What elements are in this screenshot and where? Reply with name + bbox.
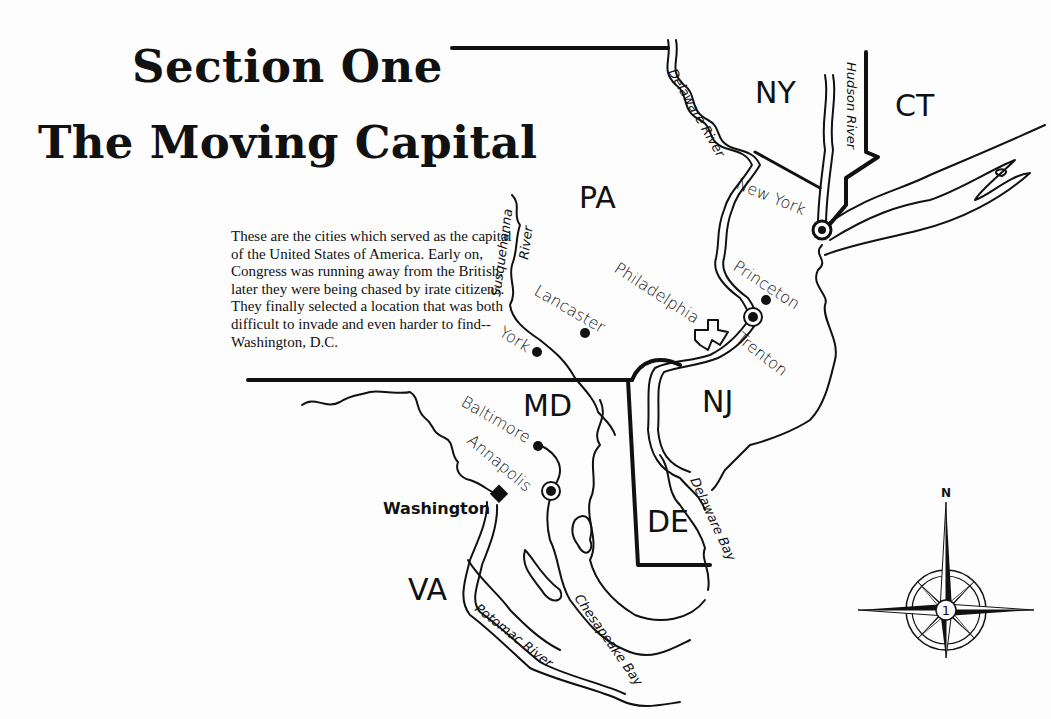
city-label-trenton: Trenton xyxy=(733,328,792,380)
annapolis-marker xyxy=(542,482,560,500)
city-label-philadelphia: Philadelphia xyxy=(611,258,703,327)
historical-map: PA NY CT NJ MD DE VA New York Princeton … xyxy=(0,0,1051,719)
label-delaware-river: Delaware River xyxy=(665,66,728,161)
state-label-ct: CT xyxy=(895,88,935,123)
compass-rose: 1 N xyxy=(858,486,1034,658)
state-label-nj: NJ xyxy=(702,384,733,419)
city-label-lancaster: Lancaster xyxy=(531,281,609,337)
city-label-new-york: New York xyxy=(734,174,809,219)
washington-marker xyxy=(490,485,508,503)
york-marker xyxy=(532,347,542,357)
state-label-de: DE xyxy=(647,504,689,539)
hudson-river xyxy=(818,75,834,225)
label-potomac-river: Potomac River xyxy=(472,601,557,672)
eastern-shore-inlet xyxy=(572,516,591,553)
state-label-ny: NY xyxy=(755,75,796,110)
baltimore-marker xyxy=(533,441,543,451)
ny-nj-border xyxy=(755,152,820,188)
philadelphia-marker xyxy=(695,320,728,350)
state-label-pa: PA xyxy=(579,180,616,215)
compass-north-label: N xyxy=(941,486,951,500)
new-york-marker xyxy=(813,221,831,239)
map-page: Section One The Moving Capital These are… xyxy=(0,0,1051,719)
label-hudson-river: Hudson River xyxy=(844,62,859,151)
compass-center-label: 1 xyxy=(942,603,950,618)
state-label-va: VA xyxy=(408,572,448,607)
city-label-washington: Washington xyxy=(383,499,490,518)
city-label-york: York xyxy=(496,322,534,356)
trenton-marker xyxy=(744,308,762,326)
label-chesapeake-bay: Chesapeake Bay xyxy=(572,591,647,689)
svg-text:Susquehanna: Susquehanna xyxy=(488,208,515,298)
state-label-md: MD xyxy=(523,388,572,423)
